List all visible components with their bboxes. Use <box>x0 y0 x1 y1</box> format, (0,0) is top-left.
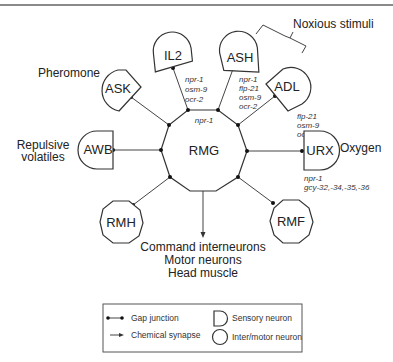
legend-inter-motor-neuron-icon <box>213 330 228 345</box>
pheromone-label: Pheromone <box>38 66 100 80</box>
urx-label: URX <box>306 143 334 158</box>
legend-sensory-neuron-label: Sensory neuron <box>232 313 292 323</box>
neuron-awb: AWB <box>78 131 113 169</box>
ash-label: ASH <box>227 50 254 65</box>
gap-junction-rmh-rmg <box>133 177 170 205</box>
neuron-ash: ASH npr-1 flp-21 osm-9 ocr-2 <box>217 29 263 111</box>
ash-gene-4: ocr-2 <box>239 102 258 111</box>
urx-gene-2: gcy-32,-34,-35,-36 <box>304 183 370 192</box>
rmg-hub-diagram: RMG npr-1 IL2 npr-1 osm-9 ocr-2 ASH npr-… <box>0 0 393 362</box>
gap-junction-ask-rmg <box>131 97 169 125</box>
rmg-gene: npr-1 <box>195 116 214 125</box>
neuron-adl: ADL flp-21 osm-9 ocr-2 <box>266 67 320 139</box>
il2-gene-2: osm-9 <box>185 85 208 94</box>
ash-gene-1: npr-1 <box>239 75 258 84</box>
adl-gene-1: flp-21 <box>297 112 317 121</box>
legend-box <box>103 304 302 352</box>
urx-gene-1: npr-1 <box>304 174 323 183</box>
output-motor-neurons: Motor neurons <box>164 253 241 267</box>
noxious-stimuli-label: Noxious stimuli <box>293 17 374 31</box>
repulsive-label-line2: volatiles <box>21 150 64 164</box>
adl-label: ADL <box>274 79 299 94</box>
neuron-rmh: RMH <box>100 201 143 243</box>
legend-inter-motor-neuron-label: Inter/motor neuron <box>232 332 302 342</box>
oxygen-label: Oxygen <box>340 141 381 155</box>
il2-label: IL2 <box>164 48 182 63</box>
legend-gap-junction-label: Gap junction <box>131 313 179 323</box>
adl-gene-2: osm-9 <box>297 121 320 130</box>
legend-sensory-neuron-icon <box>214 311 228 326</box>
legend-dot-right-icon <box>120 316 124 320</box>
il2-gene-3: ocr-2 <box>185 95 204 104</box>
rmh-label: RMH <box>106 215 136 230</box>
neuron-ask: ASK <box>102 70 141 111</box>
output-head-muscle: Head muscle <box>168 266 238 280</box>
il2-gene-1: npr-1 <box>185 75 204 84</box>
neuron-il2: IL2 npr-1 osm-9 ocr-2 <box>151 30 207 104</box>
rmf-label: RMF <box>277 214 305 229</box>
output-command-interneurons: Command interneurons <box>140 240 265 254</box>
ash-gene-3: osm-9 <box>239 93 262 102</box>
legend: Gap junction Chemical synapse Sensory ne… <box>103 304 302 352</box>
neuron-rmg: RMG npr-1 <box>161 110 247 191</box>
legend-dot-left-icon <box>106 316 110 320</box>
arrowhead-icon <box>201 232 206 238</box>
awb-label: AWB <box>83 142 112 157</box>
gap-junction-ash-rmg <box>218 69 233 110</box>
rmg-label: RMG <box>189 143 219 158</box>
ash-gene-2: flp-21 <box>239 84 259 93</box>
ask-label: ASK <box>105 81 131 96</box>
legend-chemical-synapse-label: Chemical synapse <box>131 330 201 340</box>
neuron-rmf: RMF <box>270 200 313 243</box>
gap-junction-rmf-rmg <box>238 177 273 203</box>
